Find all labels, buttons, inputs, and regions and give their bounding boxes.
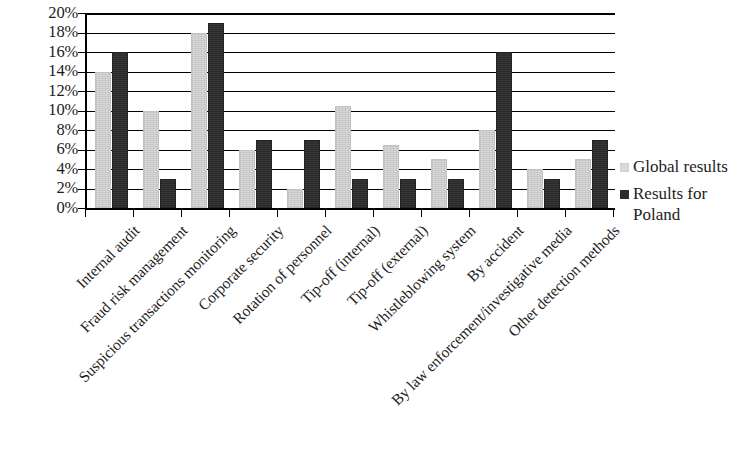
- bar-global: [527, 169, 543, 208]
- x-axis-tick-mark: [421, 210, 422, 217]
- x-axis-tick-mark: [373, 210, 374, 217]
- y-axis-tick-mark: [78, 111, 85, 112]
- y-axis-tick-label: 12%: [48, 83, 78, 100]
- bar-group: [135, 13, 183, 208]
- bars-layer: [87, 13, 615, 208]
- legend-item: Results for Poland: [620, 183, 756, 225]
- bar-group: [471, 13, 519, 208]
- y-axis-tick-mark: [78, 150, 85, 151]
- bar-group: [231, 13, 279, 208]
- bar-group: [279, 13, 327, 208]
- legend-swatch-global-icon: [620, 163, 629, 172]
- y-axis-tick-mark: [78, 130, 85, 131]
- legend-label: Global results: [633, 156, 728, 177]
- x-axis-tick-mark: [613, 210, 614, 217]
- bar-group: [567, 13, 615, 208]
- bar-group: [519, 13, 567, 208]
- bar-group: [423, 13, 471, 208]
- bar-group: [87, 13, 135, 208]
- legend-item: Global results: [620, 156, 756, 177]
- y-axis-tick-label: 0%: [56, 200, 78, 217]
- y-axis-tick-mark: [78, 52, 85, 53]
- bar-poland: [256, 140, 272, 208]
- bar-global: [431, 159, 447, 208]
- y-axis-tick-mark: [78, 189, 85, 190]
- x-axis-tick-mark: [133, 210, 134, 217]
- bar-global: [191, 33, 207, 209]
- bar-poland: [400, 179, 416, 208]
- y-axis: 0%2%4%6%8%10%12%14%16%18%20%: [0, 0, 84, 220]
- bar-group: [327, 13, 375, 208]
- x-axis-tick-mark: [277, 210, 278, 217]
- y-axis-tick-mark: [78, 208, 85, 209]
- x-axis-tick-mark: [565, 210, 566, 217]
- bar-global: [479, 130, 495, 208]
- bar-poland: [352, 179, 368, 208]
- y-axis-tick-mark: [78, 169, 85, 170]
- x-axis-tick-mark: [181, 210, 182, 217]
- bar-poland: [112, 52, 128, 208]
- bar-poland: [208, 23, 224, 208]
- x-axis-tick-mark: [325, 210, 326, 217]
- bar-global: [575, 159, 591, 208]
- bar-global: [95, 72, 111, 209]
- y-axis-tick-label: 20%: [48, 5, 78, 22]
- legend-swatch-poland-icon: [620, 190, 629, 199]
- x-axis-tick-mark: [469, 210, 470, 217]
- bar-global: [335, 106, 351, 208]
- y-axis-tick-label: 8%: [56, 122, 78, 139]
- y-axis-tick-mark: [78, 33, 85, 34]
- bar-poland: [496, 52, 512, 208]
- bar-global: [383, 145, 399, 208]
- y-axis-tick-mark: [78, 91, 85, 92]
- y-axis-tick-label: 14%: [48, 63, 78, 80]
- x-axis-tick-mark: [229, 210, 230, 217]
- bar-poland: [544, 179, 560, 208]
- bar-poland: [448, 179, 464, 208]
- chart-legend: Global resultsResults for Poland: [620, 156, 756, 231]
- y-axis-tick-mark: [78, 13, 85, 14]
- y-axis-tick-label: 10%: [48, 102, 78, 119]
- bar-poland: [160, 179, 176, 208]
- y-axis-tick-label: 16%: [48, 44, 78, 61]
- bar-poland: [592, 140, 608, 208]
- legend-label: Results for Poland: [633, 183, 707, 225]
- x-axis-tick-mark: [85, 210, 86, 217]
- y-axis-tick-label: 2%: [56, 180, 78, 197]
- bar-global: [143, 111, 159, 209]
- bar-global: [287, 189, 303, 209]
- y-axis-tick-label: 18%: [48, 24, 78, 41]
- bar-global: [239, 150, 255, 209]
- bar-group: [183, 13, 231, 208]
- y-axis-tick-label: 6%: [56, 141, 78, 158]
- x-axis-tick-mark: [517, 210, 518, 217]
- y-axis-tick-mark: [78, 72, 85, 73]
- bar-group: [375, 13, 423, 208]
- bar-chart: 0%2%4%6%8%10%12%14%16%18%20% Internal au…: [0, 0, 756, 467]
- plot-area: [85, 13, 615, 210]
- y-axis-tick-label: 4%: [56, 161, 78, 178]
- bar-poland: [304, 140, 320, 208]
